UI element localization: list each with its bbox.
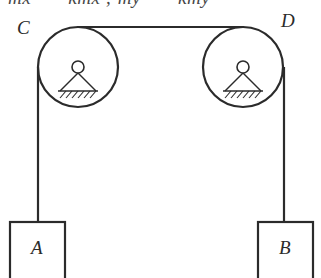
block-a-label: A — [31, 237, 43, 259]
pulley-right-support-leg-a — [225, 73, 243, 91]
figure-drawing — [0, 0, 321, 278]
pulley-left-axle — [72, 61, 84, 73]
pulley-right-axle — [237, 61, 249, 73]
pulley-right-hatching — [225, 91, 261, 98]
pulley-left-support-leg-b — [78, 73, 96, 91]
pulley-figure: mẍ = −kmẋ ; mÿ = −kmẏ — [0, 0, 321, 278]
pulley-left-hatching — [60, 91, 96, 98]
pulley-right-group — [203, 27, 283, 107]
pulley-right-label: D — [281, 10, 295, 32]
pulley-left-support-leg-a — [60, 73, 78, 91]
pulley-right-support-leg-b — [243, 73, 261, 91]
block-b-label: B — [279, 237, 291, 259]
pulley-left-group — [38, 27, 118, 107]
pulley-left-label: C — [17, 17, 30, 39]
